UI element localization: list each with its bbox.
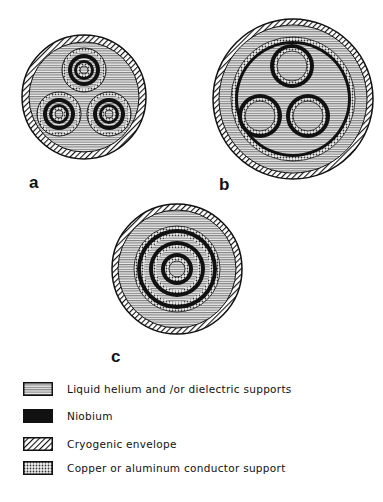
conductor-right (286, 94, 330, 138)
panel-b-cross-section (213, 19, 373, 179)
legend-item-liquid-helium: Liquid helium and /or dielectric support… (23, 382, 292, 396)
horizontal-lines-swatch-icon (23, 382, 53, 396)
legend-label: Liquid helium and /or dielectric support… (67, 383, 292, 395)
conductor-top (62, 48, 106, 92)
solid-black-swatch-icon (23, 409, 53, 423)
cable-cross-sections-figure (0, 0, 383, 502)
panel-c-label: c (111, 347, 120, 367)
legend-label: Cryogenic envelope (67, 438, 177, 450)
conductor-top (270, 44, 314, 88)
crosshatch-swatch-icon (23, 461, 53, 475)
panel-c-cross-section (112, 204, 242, 334)
panel-a-label: a (29, 173, 38, 193)
legend-item-conductor-support: Copper or aluminum conductor support (23, 461, 286, 475)
legend-label: Niobium (67, 410, 113, 422)
conductor-left (37, 92, 81, 136)
diagonal-hatch-swatch-icon (23, 437, 53, 451)
panel-b-label: b (219, 175, 229, 195)
legend-item-cryogenic-envelope: Cryogenic envelope (23, 437, 177, 451)
legend-item-niobium: Niobium (23, 409, 113, 423)
conductor-left (238, 94, 282, 138)
legend-label: Copper or aluminum conductor support (67, 462, 286, 474)
conductor-right (87, 92, 131, 136)
panel-a-cross-section (22, 35, 146, 159)
